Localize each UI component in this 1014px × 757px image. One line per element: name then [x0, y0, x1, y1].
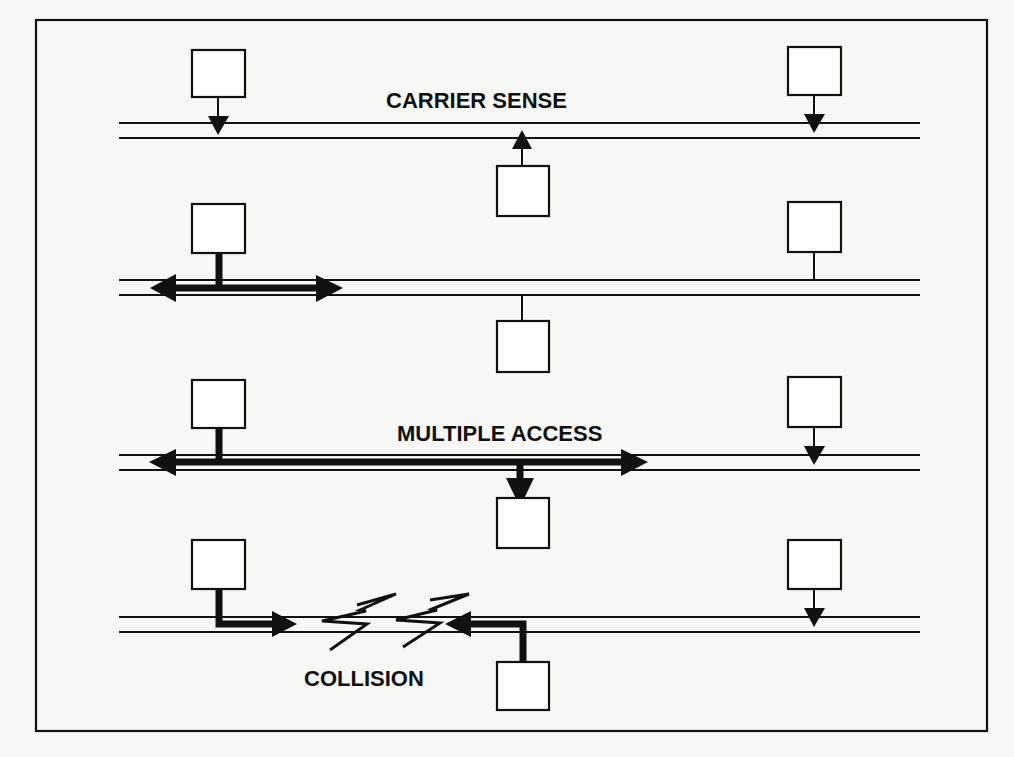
station-node — [192, 50, 245, 97]
arrow-right-icon — [621, 449, 648, 476]
station-node — [788, 47, 841, 95]
station-node — [497, 321, 549, 372]
transmit-path — [219, 589, 278, 624]
station-node — [788, 202, 841, 252]
arrow-left-icon — [149, 449, 176, 476]
label-multiple-access: MULTIPLE ACCESS — [397, 421, 602, 446]
collision-bolt-icon — [322, 594, 396, 650]
station-node — [192, 204, 245, 253]
label-collision: COLLISION — [304, 666, 424, 691]
panel-carrier-sense: CARRIER SENSE — [119, 47, 920, 216]
transmit-path — [465, 624, 523, 662]
station-node — [497, 498, 549, 548]
station-node — [788, 540, 841, 589]
label-carrier-sense: CARRIER SENSE — [386, 88, 567, 113]
panel-transmit — [119, 202, 920, 372]
station-node — [497, 662, 549, 710]
station-node — [192, 380, 245, 428]
panel-multiple-access: MULTIPLE ACCESS — [119, 377, 920, 548]
station-node — [497, 166, 549, 216]
csma-cd-diagram: CARRIER SENSE MULTIPLE ACCESS — [0, 0, 1014, 757]
arrow-up-icon — [512, 130, 532, 149]
panel-collision: COLLISION — [119, 540, 920, 710]
station-node — [192, 540, 245, 589]
arrow-down-icon — [208, 116, 229, 135]
arrow-left-icon — [150, 274, 176, 302]
station-node — [788, 377, 841, 427]
